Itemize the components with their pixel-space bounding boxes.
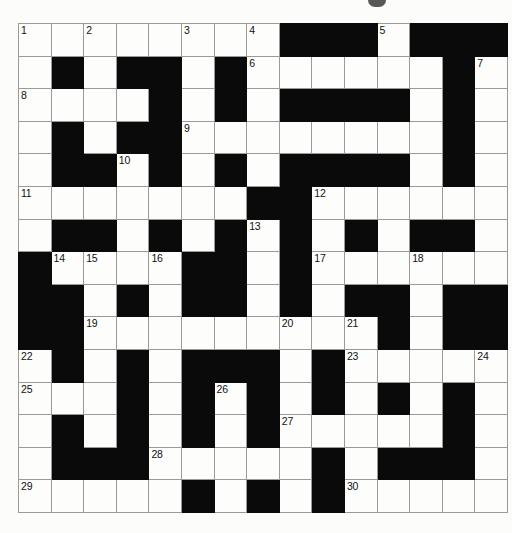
crossword-cell[interactable] xyxy=(181,447,214,480)
crossword-cell[interactable] xyxy=(442,186,475,219)
crossword-cell[interactable] xyxy=(247,447,280,480)
crossword-cell[interactable] xyxy=(410,317,443,350)
crossword-cell[interactable] xyxy=(312,317,345,350)
crossword-cell[interactable] xyxy=(312,284,345,317)
crossword-cell[interactable] xyxy=(410,480,443,513)
crossword-cell[interactable] xyxy=(312,56,345,89)
crossword-cell[interactable] xyxy=(410,154,443,187)
crossword-cell[interactable]: 28 xyxy=(149,447,182,480)
crossword-cell[interactable] xyxy=(377,56,410,89)
crossword-cell[interactable] xyxy=(84,382,117,415)
crossword-cell[interactable]: 27 xyxy=(279,415,312,448)
crossword-cell[interactable] xyxy=(475,382,508,415)
crossword-cell[interactable] xyxy=(410,284,443,317)
crossword-cell[interactable] xyxy=(410,121,443,154)
crossword-cell[interactable] xyxy=(312,121,345,154)
crossword-cell[interactable] xyxy=(377,349,410,382)
crossword-cell[interactable] xyxy=(475,252,508,285)
crossword-cell[interactable] xyxy=(377,480,410,513)
crossword-cell[interactable] xyxy=(51,24,84,57)
crossword-cell[interactable]: 30 xyxy=(344,480,377,513)
crossword-cell[interactable]: 10 xyxy=(116,154,149,187)
crossword-cell[interactable] xyxy=(279,382,312,415)
crossword-cell[interactable] xyxy=(181,219,214,252)
crossword-cell[interactable] xyxy=(279,56,312,89)
crossword-cell[interactable]: 18 xyxy=(410,252,443,285)
crossword-cell[interactable] xyxy=(377,252,410,285)
crossword-cell[interactable] xyxy=(116,186,149,219)
crossword-cell[interactable] xyxy=(279,447,312,480)
crossword-cell[interactable] xyxy=(475,480,508,513)
crossword-cell[interactable] xyxy=(149,415,182,448)
crossword-cell[interactable] xyxy=(247,121,280,154)
crossword-cell[interactable] xyxy=(51,480,84,513)
crossword-cell[interactable] xyxy=(247,284,280,317)
crossword-cell[interactable] xyxy=(410,186,443,219)
crossword-cell[interactable] xyxy=(475,121,508,154)
crossword-cell[interactable]: 22 xyxy=(19,349,52,382)
crossword-cell[interactable] xyxy=(247,89,280,122)
crossword-cell[interactable] xyxy=(84,56,117,89)
crossword-cell[interactable]: 6 xyxy=(247,56,280,89)
crossword-cell[interactable] xyxy=(410,382,443,415)
crossword-cell[interactable]: 23 xyxy=(344,349,377,382)
crossword-cell[interactable] xyxy=(149,480,182,513)
crossword-cell[interactable] xyxy=(442,480,475,513)
crossword-cell[interactable]: 8 xyxy=(19,89,52,122)
crossword-cell[interactable] xyxy=(116,252,149,285)
crossword-cell[interactable] xyxy=(442,252,475,285)
crossword-cell[interactable] xyxy=(247,317,280,350)
crossword-cell[interactable] xyxy=(377,186,410,219)
crossword-grid[interactable]: 1234567891011121314151617181920212223242… xyxy=(18,23,508,513)
crossword-cell[interactable] xyxy=(181,154,214,187)
crossword-cell[interactable] xyxy=(19,447,52,480)
crossword-cell[interactable] xyxy=(19,121,52,154)
crossword-cell[interactable]: 26 xyxy=(214,382,247,415)
crossword-cell[interactable] xyxy=(247,252,280,285)
crossword-cell[interactable] xyxy=(475,415,508,448)
crossword-cell[interactable]: 24 xyxy=(475,349,508,382)
crossword-cell[interactable] xyxy=(19,219,52,252)
crossword-cell[interactable]: 13 xyxy=(247,219,280,252)
crossword-cell[interactable] xyxy=(116,480,149,513)
crossword-cell[interactable] xyxy=(344,121,377,154)
crossword-cell[interactable] xyxy=(344,186,377,219)
crossword-cell[interactable]: 7 xyxy=(475,56,508,89)
crossword-cell[interactable]: 9 xyxy=(181,121,214,154)
crossword-cell[interactable] xyxy=(377,415,410,448)
crossword-cell[interactable] xyxy=(344,415,377,448)
crossword-cell[interactable] xyxy=(84,186,117,219)
crossword-cell[interactable] xyxy=(344,252,377,285)
crossword-cell[interactable] xyxy=(181,89,214,122)
crossword-cell[interactable] xyxy=(410,415,443,448)
crossword-cell[interactable]: 5 xyxy=(377,24,410,57)
crossword-cell[interactable] xyxy=(84,89,117,122)
crossword-cell[interactable] xyxy=(475,89,508,122)
crossword-cell[interactable] xyxy=(214,186,247,219)
crossword-cell[interactable]: 1 xyxy=(19,24,52,57)
crossword-cell[interactable] xyxy=(116,89,149,122)
crossword-cell[interactable] xyxy=(214,317,247,350)
crossword-cell[interactable] xyxy=(344,382,377,415)
crossword-cell[interactable] xyxy=(344,447,377,480)
crossword-cell[interactable] xyxy=(344,56,377,89)
crossword-cell[interactable] xyxy=(312,415,345,448)
crossword-cell[interactable]: 20 xyxy=(279,317,312,350)
crossword-cell[interactable]: 3 xyxy=(181,24,214,57)
crossword-cell[interactable] xyxy=(442,349,475,382)
crossword-cell[interactable] xyxy=(410,56,443,89)
crossword-cell[interactable]: 25 xyxy=(19,382,52,415)
crossword-cell[interactable] xyxy=(84,121,117,154)
crossword-cell[interactable] xyxy=(377,121,410,154)
crossword-cell[interactable]: 12 xyxy=(312,186,345,219)
crossword-grid-container[interactable]: 1234567891011121314151617181920212223242… xyxy=(18,23,508,513)
crossword-cell[interactable] xyxy=(475,186,508,219)
crossword-cell[interactable]: 21 xyxy=(344,317,377,350)
crossword-cell[interactable] xyxy=(214,24,247,57)
crossword-cell[interactable]: 15 xyxy=(84,252,117,285)
crossword-cell[interactable] xyxy=(84,415,117,448)
crossword-cell[interactable]: 29 xyxy=(19,480,52,513)
crossword-cell[interactable] xyxy=(116,24,149,57)
crossword-cell[interactable] xyxy=(181,317,214,350)
crossword-cell[interactable] xyxy=(51,186,84,219)
